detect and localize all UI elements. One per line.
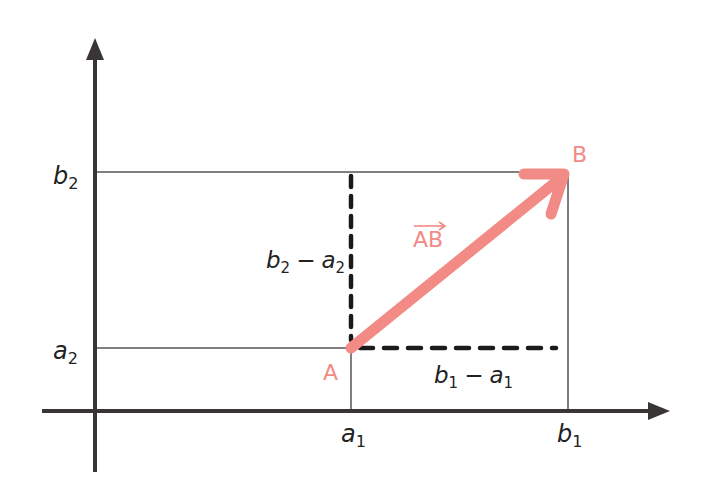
axes — [42, 38, 670, 472]
vector-label: AB — [413, 222, 445, 252]
x-axis-arrowhead-icon — [648, 402, 670, 420]
y-tick-b2: b2 — [53, 162, 78, 193]
y-axis-arrowhead-icon — [86, 38, 104, 60]
vector-ab — [351, 174, 564, 348]
vector-diagram: b2 a2 a1 b1 b2−a2 b1−a1 A B AB — [0, 0, 708, 501]
vector-shaft — [351, 177, 562, 348]
point-a-label: A — [323, 360, 338, 385]
x-tick-a1: a1 — [341, 420, 366, 451]
vector-label-text: AB — [413, 227, 443, 252]
vertical-component-label: b2−a2 — [266, 247, 345, 277]
horizontal-component-label: b1−a1 — [434, 362, 513, 392]
x-tick-b1: b1 — [557, 420, 582, 451]
y-tick-a2: a2 — [53, 337, 78, 368]
point-b-label: B — [572, 142, 587, 167]
